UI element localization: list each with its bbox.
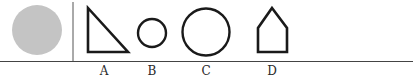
option-label-d: D	[262, 64, 282, 78]
option-c-large-circle[interactable]	[183, 9, 230, 56]
figure-puzzle: A B C D	[0, 0, 420, 81]
option-label-b: B	[142, 64, 162, 78]
option-a-triangle[interactable]	[88, 8, 128, 52]
option-b-small-circle[interactable]	[138, 19, 166, 47]
gray-filled-circle	[12, 5, 62, 55]
option-label-c: C	[196, 64, 216, 78]
option-label-a: A	[94, 64, 114, 78]
option-d-house-pentagon[interactable]	[258, 8, 287, 52]
